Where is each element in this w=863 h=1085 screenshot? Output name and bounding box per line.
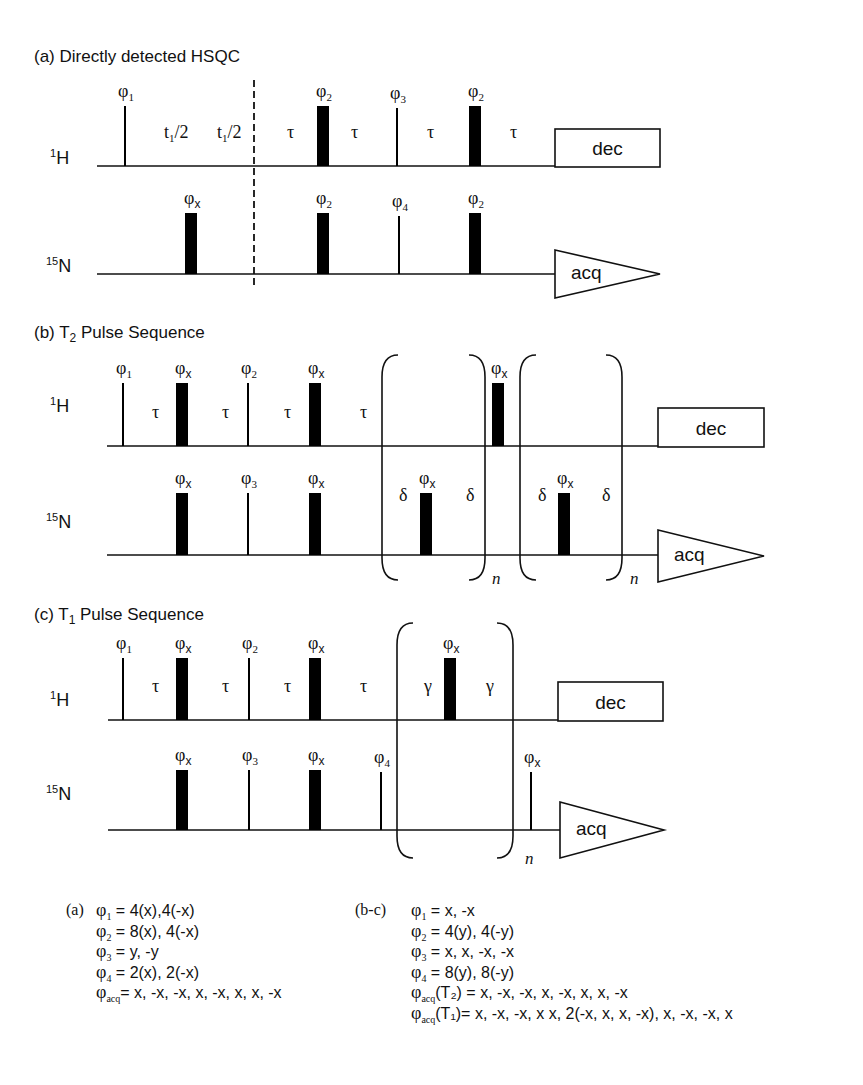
pulse-180 xyxy=(176,658,188,720)
loop-bracket-right xyxy=(497,623,513,858)
pulse-90 xyxy=(380,772,382,830)
phase-label: φ2 xyxy=(468,188,484,210)
channel-label-15n: 15N xyxy=(46,255,71,276)
pulse-180 xyxy=(317,106,329,166)
delay-label: τ xyxy=(284,402,291,422)
dec-label: dec xyxy=(592,138,623,159)
delay-label: δ xyxy=(466,485,474,505)
phase-label: φx xyxy=(175,633,191,656)
pulse-180 xyxy=(185,213,197,274)
delay-label: t1/2 xyxy=(164,122,189,144)
phase-label: φ2 xyxy=(316,81,332,103)
loop-bracket-right xyxy=(469,355,485,580)
channel-label-15n: 15N xyxy=(46,511,71,532)
loop-count-n: n xyxy=(492,569,501,588)
panel-c: (c) T1 Pulse Sequence1H15Nφ1φxφ2φxφxφxφ3… xyxy=(34,605,664,868)
pulse-180 xyxy=(309,493,321,555)
phase-label: φx xyxy=(175,468,191,491)
phase-label: φ2 xyxy=(316,188,332,210)
pulse-90 xyxy=(247,383,249,446)
phase-label: φ4 xyxy=(374,747,390,769)
loop-bracket-right xyxy=(606,355,622,580)
delay-label: t1/2 xyxy=(217,122,242,144)
loop-bracket-left xyxy=(397,623,413,858)
channel-label-15n: 15N xyxy=(46,783,71,804)
dec-label: dec xyxy=(696,418,727,439)
loop-bracket-left xyxy=(520,355,536,580)
phase-label: φx xyxy=(491,358,507,381)
phase-label: φx xyxy=(308,468,324,491)
phase-cycle-bc: (b-c) φ1 = x, -xφ2 = 4(y), 4(-y)φ3 = x, … xyxy=(355,900,855,1030)
pulse-90 xyxy=(124,106,126,166)
phase-label: φ1 xyxy=(116,633,132,655)
phase-label: φx xyxy=(308,358,324,381)
pulse-90 xyxy=(122,383,124,446)
pulse-90 xyxy=(122,658,124,720)
pulse-90 xyxy=(248,770,250,830)
loop-count-n: n xyxy=(525,849,534,868)
pulse-180 xyxy=(309,383,321,446)
delay-label: δ xyxy=(538,485,546,505)
phase-label: φ2 xyxy=(241,358,257,380)
panel-title: (a) Directly detected HSQC xyxy=(34,47,240,66)
delay-label: τ xyxy=(152,676,159,696)
delay-label: τ xyxy=(284,676,291,696)
acq-label: acq xyxy=(571,262,602,283)
phase-label: φx xyxy=(524,747,540,770)
phase-label: φ3 xyxy=(242,745,258,767)
pulse-90 xyxy=(247,493,249,555)
pulse-90 xyxy=(396,108,398,166)
delay-label: τ xyxy=(351,122,358,142)
pulse-180 xyxy=(492,383,504,446)
pulse-180 xyxy=(317,213,329,274)
phase-label: φx xyxy=(557,468,573,491)
loop-count-n: n xyxy=(630,569,639,588)
phase-cycle-line: φacq= x, -x, -x, x, -x, x, x, -x xyxy=(96,982,282,1010)
channel-label-1h: 1H xyxy=(50,689,69,710)
acq-label: acq xyxy=(576,818,607,839)
panel-a: (a) Directly detected HSQC1H15Nφ1φ2φ3φ2φ… xyxy=(34,47,660,298)
pulse-180 xyxy=(469,213,481,274)
pulse-180 xyxy=(309,658,321,720)
pulse-90 xyxy=(248,658,250,720)
phase-label: φx xyxy=(308,633,324,656)
delay-label: τ xyxy=(287,122,294,142)
pulse-180 xyxy=(176,770,188,830)
pulse-180 xyxy=(420,493,432,555)
phase-label: φ1 xyxy=(118,81,134,103)
phase-label: φ3 xyxy=(390,83,406,105)
phase-label: φx xyxy=(443,633,459,656)
phase-cycle-bc-tag: (b-c) xyxy=(355,900,386,921)
phase-label: φx xyxy=(419,468,435,491)
dec-label: dec xyxy=(595,692,626,713)
pulse-180 xyxy=(444,658,456,720)
delay-label: τ xyxy=(360,676,367,696)
phase-cycle-a: (a) φ1 = 4(x),4(-x)φ2 = 8(x), 4(-x)φ3 = … xyxy=(66,900,366,1010)
phase-label: φx xyxy=(308,745,324,768)
delay-label: τ xyxy=(510,122,517,142)
phase-label: φx xyxy=(175,358,191,381)
loop-bracket-left xyxy=(382,355,398,580)
pulse-180 xyxy=(176,493,188,555)
delay-label: γ xyxy=(423,676,432,696)
pulse-180 xyxy=(176,383,188,446)
delay-label: τ xyxy=(222,676,229,696)
phase-label: φ4 xyxy=(392,191,408,213)
pulse-180 xyxy=(558,493,570,555)
pulse-180 xyxy=(309,770,321,830)
pulse-90 xyxy=(398,216,400,274)
panel-title: (b) T2 Pulse Sequence xyxy=(34,323,205,345)
delay-label: τ xyxy=(222,402,229,422)
phase-cycle-line: φacq(T₁)= x, -x, -x, x x, 2(-x, x, x, -x… xyxy=(411,1003,733,1031)
delay-label: γ xyxy=(485,676,494,696)
channel-label-1h: 1H xyxy=(50,147,69,168)
delay-label: δ xyxy=(399,485,407,505)
phase-label: φ3 xyxy=(241,468,257,490)
phase-label: φx xyxy=(175,745,191,768)
acq-label: acq xyxy=(674,544,705,565)
pulse-180 xyxy=(469,106,481,166)
delay-label: τ xyxy=(152,402,159,422)
phase-label: φ1 xyxy=(116,358,132,380)
delay-label: τ xyxy=(360,402,367,422)
phase-cycle-a-tag: (a) xyxy=(66,900,84,921)
